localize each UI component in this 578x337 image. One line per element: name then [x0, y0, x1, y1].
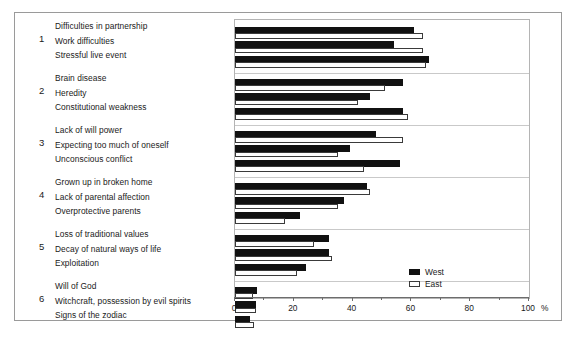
category-label: Heredity	[55, 86, 233, 101]
bar-row	[235, 92, 529, 107]
bar-east	[235, 166, 364, 172]
chart-legend: West East	[409, 266, 479, 290]
category-label: Expecting too much of oneself	[55, 138, 233, 153]
bar-east	[235, 256, 332, 262]
legend-label-west: West	[425, 266, 444, 278]
category-label: Witchcraft, possession by evil spirits	[55, 294, 233, 309]
group-item-list: Will of GodWitchcraft, possession by evi…	[55, 279, 233, 323]
plot-area	[234, 19, 530, 299]
x-axis: % 020406080100	[234, 297, 530, 323]
group-number-label: 6	[39, 293, 44, 304]
bar-row	[235, 248, 529, 263]
category-label: Stressful live event	[55, 48, 233, 63]
bar-row	[235, 196, 529, 211]
category-label: Decay of natural ways of life	[55, 242, 233, 257]
x-axis-minor-tick	[263, 297, 264, 300]
group-number-label: 3	[39, 137, 44, 148]
x-axis-tick-label: 100	[521, 303, 535, 313]
x-axis-minor-tick	[440, 297, 441, 300]
x-axis-minor-tick	[381, 297, 382, 300]
group-item-list: Brain diseaseHeredityConstitutional weak…	[55, 71, 233, 115]
bar-group-5	[235, 233, 529, 277]
bar-east	[235, 322, 254, 328]
bar-east	[235, 33, 423, 39]
bar-east	[235, 62, 426, 68]
x-axis-tick	[293, 297, 294, 301]
category-label-column: 1Difficulties in partnershipWork difficu…	[15, 13, 234, 322]
group-divider	[235, 177, 529, 178]
bar-row	[235, 129, 529, 144]
bar-row	[235, 158, 529, 173]
bar-east	[235, 204, 338, 210]
legend-swatch-east-icon	[409, 281, 420, 287]
group-number-label: 1	[39, 33, 44, 44]
legend-item-west: West	[409, 266, 479, 278]
bar-row	[235, 262, 529, 277]
category-label: Lack of will power	[55, 123, 233, 138]
bar-group-1	[235, 25, 529, 69]
x-axis-tick	[469, 297, 470, 301]
group-item-list: Grown up in broken homeLack of parental …	[55, 175, 233, 219]
bar-row	[235, 106, 529, 121]
x-axis-unit-label: %	[541, 303, 548, 313]
group-item-list: Difficulties in partnershipWork difficul…	[55, 19, 233, 63]
x-axis-minor-tick	[499, 297, 500, 300]
x-axis-tick	[234, 297, 235, 301]
bar-east	[235, 100, 358, 106]
chart-page: 1Difficulties in partnershipWork difficu…	[0, 0, 578, 337]
bar-row	[235, 210, 529, 225]
chart-frame: 1Difficulties in partnershipWork difficu…	[14, 12, 562, 321]
x-axis-tick-label: 20	[288, 303, 297, 313]
group-divider	[235, 229, 529, 230]
bar-east	[235, 114, 408, 120]
bar-row	[235, 77, 529, 92]
bar-east	[235, 48, 423, 54]
category-label: Exploitation	[55, 256, 233, 271]
x-axis-tick-label: 60	[406, 303, 415, 313]
category-label: Overprotective parents	[55, 204, 233, 219]
x-axis-minor-tick	[322, 297, 323, 300]
group-divider	[235, 125, 529, 126]
bar-group-2	[235, 77, 529, 121]
bar-row	[235, 233, 529, 248]
category-label: Difficulties in partnership	[55, 19, 233, 34]
group-number-label: 2	[39, 85, 44, 96]
category-label: Loss of traditional values	[55, 227, 233, 242]
x-axis-tick	[528, 297, 529, 301]
group-item-list: Lack of will powerExpecting too much of …	[55, 123, 233, 167]
x-axis-tick-label: 40	[347, 303, 356, 313]
x-axis-tick-label: 80	[465, 303, 474, 313]
bar-east	[235, 152, 338, 158]
category-label: Signs of the zodiac	[55, 308, 233, 323]
bar-row	[235, 181, 529, 196]
legend-item-east: East	[409, 278, 479, 290]
legend-swatch-west-icon	[409, 269, 420, 275]
bar-row	[235, 25, 529, 40]
bar-east	[235, 85, 385, 91]
bar-east	[235, 241, 314, 247]
bar-group-3	[235, 129, 529, 173]
bar-east	[235, 270, 297, 276]
category-label: Grown up in broken home	[55, 175, 233, 190]
bar-east	[235, 137, 403, 143]
legend-label-east: East	[425, 278, 442, 290]
bar-east	[235, 218, 285, 224]
bar-group-4	[235, 181, 529, 225]
group-divider	[235, 281, 529, 282]
category-label: Will of God	[55, 279, 233, 294]
bar-row	[235, 40, 529, 55]
category-label: Work difficulties	[55, 34, 233, 49]
x-axis-tick	[352, 297, 353, 301]
group-item-list: Loss of traditional valuesDecay of natur…	[55, 227, 233, 271]
group-number-label: 5	[39, 241, 44, 252]
bar-row	[235, 144, 529, 159]
category-label: Lack of parental affection	[55, 190, 233, 205]
category-label: Brain disease	[55, 71, 233, 86]
category-label: Constitutional weakness	[55, 100, 233, 115]
bar-row	[235, 54, 529, 69]
bar-east	[235, 189, 370, 195]
group-number-label: 4	[39, 189, 44, 200]
x-axis-tick	[410, 297, 411, 301]
x-axis-tick-label: 0	[232, 303, 237, 313]
category-label: Unconscious conflict	[55, 152, 233, 167]
